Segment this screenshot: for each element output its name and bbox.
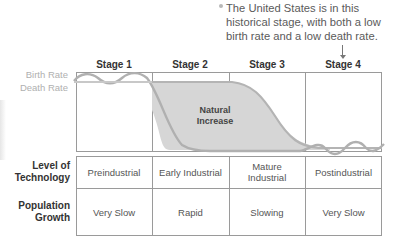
table-cell-technology-stage2: Early Industrial xyxy=(152,156,229,188)
cell-text: Very Slow xyxy=(93,207,135,218)
cell-text: Very Slow xyxy=(322,207,364,218)
row-label-line1: Level of xyxy=(15,160,70,172)
cell-text-line2: Industrial xyxy=(248,172,287,183)
row-label-line2: Technology xyxy=(15,172,70,184)
cell-text: Rapid xyxy=(178,207,203,218)
cell-text-line1: Mature xyxy=(252,161,282,172)
row-label-technology: Level of Technology xyxy=(15,160,70,184)
table-cell-growth-stage1: Very Slow xyxy=(76,188,152,236)
table-cell-growth-stage4: Very Slow xyxy=(305,188,382,236)
table-cell-technology-stage1: Preindustrial xyxy=(76,156,152,188)
table-cell-growth-stage2: Rapid xyxy=(152,188,229,236)
natural-increase-label: Natural Increase xyxy=(180,105,250,127)
cell-text: Preindustrial xyxy=(88,167,141,178)
cell-text: Slowing xyxy=(250,207,283,218)
cell-text: Postindustrial xyxy=(315,167,372,178)
row-label-line2: Growth xyxy=(18,212,70,224)
area-label-line1: Natural xyxy=(180,105,250,116)
table-cell-technology-stage4: Postindustrial xyxy=(305,156,382,188)
table-cell-growth-stage3: Slowing xyxy=(229,188,305,236)
table-cell-technology-stage3: Mature Industrial xyxy=(229,156,305,188)
row-label-line1: Population xyxy=(18,200,70,212)
cell-text: Early Industrial xyxy=(159,167,222,178)
row-label-growth: Population Growth xyxy=(18,200,70,224)
area-label-line2: Increase xyxy=(180,116,250,127)
